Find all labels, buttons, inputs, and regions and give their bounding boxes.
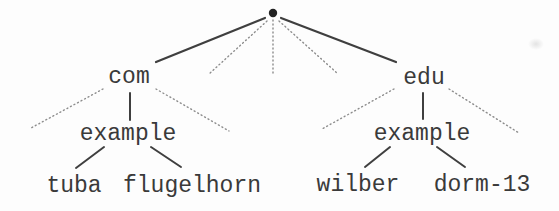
edge-root-com <box>156 18 265 62</box>
edge-example-wilber <box>365 147 390 167</box>
dns-tree-diagram: com edu example example tuba flugelhorn … <box>0 0 559 211</box>
node-dorm-13: dorm-13 <box>434 174 531 197</box>
node-example-edu: example <box>374 123 471 146</box>
edge-root-edu <box>281 18 396 62</box>
node-edu: edu <box>403 67 444 90</box>
node-example-com: example <box>80 123 177 146</box>
edge-example-dorm13 <box>437 147 465 167</box>
root-node-dot <box>269 9 277 17</box>
node-com: com <box>108 66 149 89</box>
edge-example-flugelhorn <box>151 147 181 167</box>
node-tuba: tuba <box>46 175 101 198</box>
scan-artifact <box>528 38 544 50</box>
node-wilber: wilber <box>317 174 400 197</box>
node-flugelhorn: flugelhorn <box>123 175 261 198</box>
edge-example-tuba <box>76 147 104 168</box>
